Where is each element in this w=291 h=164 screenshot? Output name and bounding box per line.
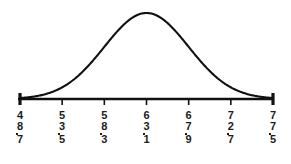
chart-plot-area xyxy=(0,0,291,164)
normal-distribution-chart: 487535583631679727775 xyxy=(0,0,291,164)
chart-background xyxy=(0,0,291,164)
